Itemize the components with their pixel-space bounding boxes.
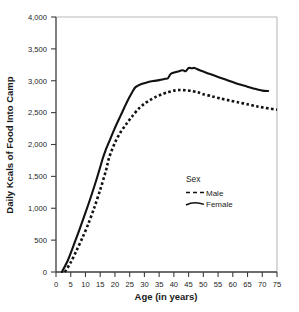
x-tick-label: 5	[69, 280, 73, 289]
y-tick-label: 500	[34, 236, 47, 245]
legend-swatch-solid	[186, 203, 204, 205]
x-tick-label: 35	[155, 280, 163, 289]
x-tick-label: 20	[111, 280, 119, 289]
legend: Sex Male Female	[186, 174, 233, 209]
x-tick-label: 45	[184, 280, 192, 289]
chart-container: 05001,0001,5002,0002,5003,0003,5004,000 …	[0, 0, 299, 312]
y-tick-label: 1,500	[28, 172, 47, 181]
x-tick-label: 65	[243, 280, 251, 289]
x-tick-label: 50	[199, 280, 207, 289]
plot-frame	[56, 17, 277, 272]
legend-title: Sex	[186, 174, 201, 184]
x-tick-label: 15	[96, 280, 104, 289]
legend-entry-male: Male	[186, 189, 224, 198]
y-tick-label: 1,000	[28, 204, 47, 213]
x-tick-label: 70	[258, 280, 266, 289]
y-axis-title: Daily Kcals of Food Into Camp	[4, 76, 15, 213]
y-tick-label: 3,000	[28, 77, 47, 86]
legend-label-female: Female	[206, 200, 233, 209]
x-tick-label: 0	[54, 280, 58, 289]
x-axis-title: Age (in years)	[135, 291, 198, 302]
line-chart: 05001,0001,5002,0002,5003,0003,5004,000 …	[0, 0, 299, 312]
legend-entry-female: Female	[186, 200, 233, 209]
x-tick-label: 30	[140, 280, 148, 289]
x-tick-label: 75	[273, 280, 281, 289]
y-tick-label: 2,500	[28, 108, 47, 117]
y-tick-label: 4,000	[28, 13, 47, 22]
y-tick-label: 3,500	[28, 45, 47, 54]
x-axis-ticks: 051015202530354045505560657075	[54, 272, 281, 289]
x-tick-label: 10	[81, 280, 89, 289]
series-line-female	[62, 68, 268, 272]
y-tick-label: 0	[43, 268, 47, 277]
x-tick-label: 40	[170, 280, 178, 289]
axes	[56, 17, 277, 272]
x-tick-label: 25	[125, 280, 133, 289]
x-tick-label: 60	[229, 280, 237, 289]
x-tick-label: 55	[214, 280, 222, 289]
y-axis-ticks: 05001,0001,5002,0002,5003,0003,5004,000	[28, 13, 56, 277]
y-tick-label: 2,000	[28, 140, 47, 149]
data-series-group	[62, 68, 277, 272]
legend-label-male: Male	[206, 189, 224, 198]
